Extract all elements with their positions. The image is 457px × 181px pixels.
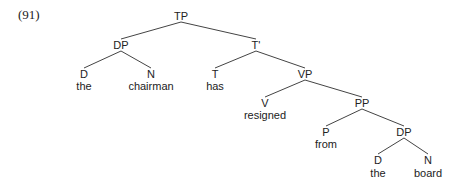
- node-tp: TP: [174, 11, 188, 22]
- tree-edge: [84, 51, 121, 68]
- tree-edge: [404, 138, 428, 154]
- word-from: from: [315, 139, 337, 150]
- node-vp: VP: [298, 69, 313, 80]
- word-resigned: resigned: [244, 110, 286, 121]
- syntax-tree-diagram: (91) TP DP T' D N T VP V PP P DP D N the…: [0, 0, 457, 181]
- node-t: T: [212, 69, 219, 80]
- word-has: has: [206, 81, 224, 92]
- tree-edge: [305, 80, 362, 97]
- node-n-object: N: [424, 155, 432, 166]
- tree-edge: [181, 22, 256, 39]
- node-d-object: D: [374, 155, 382, 166]
- word-board: board: [414, 168, 442, 179]
- node-dp-object: DP: [396, 127, 411, 138]
- tree-edge: [265, 80, 305, 97]
- word-the-subject: the: [76, 81, 91, 92]
- node-pp: PP: [355, 98, 370, 109]
- node-n-subject: N: [147, 69, 155, 80]
- tree-edge: [378, 138, 404, 154]
- tree-edge: [256, 51, 305, 68]
- node-v: V: [261, 98, 268, 109]
- tree-edge: [121, 51, 151, 68]
- tree-edge: [362, 109, 404, 126]
- tree-edges: [0, 0, 457, 181]
- node-dp-subject: DP: [113, 40, 128, 51]
- node-d-subject: D: [80, 69, 88, 80]
- node-t-bar: T': [252, 40, 261, 51]
- tree-edge: [326, 109, 362, 126]
- tree-edge: [121, 22, 181, 39]
- node-p: P: [322, 127, 329, 138]
- word-the-object: the: [370, 168, 385, 179]
- word-chairman: chairman: [128, 81, 173, 92]
- tree-edge: [215, 51, 256, 68]
